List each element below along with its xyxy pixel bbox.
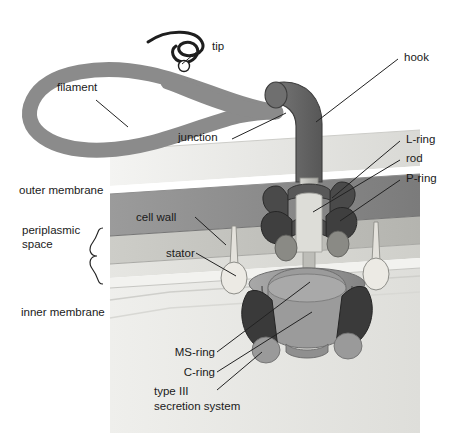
label-periplasmic-space-line2: space xyxy=(22,238,53,251)
label-t3ss-line1: type III xyxy=(154,385,189,398)
label-ms-ring: MS-ring xyxy=(135,346,215,359)
label-stator: stator xyxy=(166,247,195,260)
label-periplasmic-space-line1: periplasmic xyxy=(22,224,80,237)
label-inner-membrane: inner membrane xyxy=(21,306,105,319)
label-tip: tip xyxy=(212,40,224,53)
label-t3ss-line2: secretion system xyxy=(154,400,240,413)
label-cell-wall: cell wall xyxy=(136,211,176,224)
leader-hook xyxy=(316,59,398,122)
label-hook: hook xyxy=(404,51,429,64)
label-l-ring: L-ring xyxy=(406,133,435,146)
label-rod: rod xyxy=(406,152,423,165)
label-c-ring: C-ring xyxy=(135,366,215,379)
diagram-artwork xyxy=(0,0,459,433)
label-outer-membrane: outer membrane xyxy=(19,184,103,197)
filament-tip xyxy=(148,32,203,71)
periplasmic-brace xyxy=(90,228,103,284)
label-filament: filament xyxy=(57,81,97,94)
leader-filament xyxy=(96,100,128,127)
flagellum-diagram: tip filament junction hook L-ring rod P-… xyxy=(0,0,459,433)
label-p-ring: P-ring xyxy=(406,172,437,185)
label-junction: junction xyxy=(178,131,218,144)
